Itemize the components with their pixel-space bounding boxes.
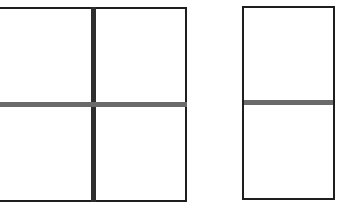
left-horizontal-divider: [0, 102, 187, 107]
right-horizontal-divider: [244, 100, 333, 105]
